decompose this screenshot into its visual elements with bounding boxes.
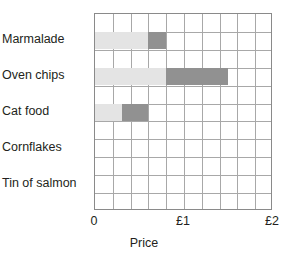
bar-segment[interactable] bbox=[95, 68, 166, 85]
x-axis-tick-label: £2 bbox=[265, 212, 279, 230]
category-label: Marmalade bbox=[2, 31, 87, 48]
category-axis-labels: MarmaladeOven chipsCat foodCornflakesTin… bbox=[0, 13, 92, 210]
bar-segment[interactable] bbox=[95, 104, 122, 121]
category-label: Tin of salmon bbox=[2, 175, 87, 192]
bar-segment[interactable] bbox=[122, 104, 149, 121]
x-axis-title: Price bbox=[0, 236, 288, 250]
bar-segment[interactable] bbox=[166, 68, 228, 85]
x-axis-tick-labels: 0£1£2 bbox=[0, 212, 288, 232]
category-label: Oven chips bbox=[2, 67, 87, 84]
plot-area bbox=[94, 13, 272, 210]
bar-row[interactable] bbox=[95, 68, 273, 85]
bar-row[interactable] bbox=[95, 32, 273, 49]
bar-row[interactable] bbox=[95, 104, 273, 121]
bars-layer bbox=[95, 14, 271, 209]
x-axis-tick-label: £1 bbox=[176, 212, 190, 230]
category-label: Cornflakes bbox=[2, 139, 87, 156]
category-label: Cat food bbox=[2, 103, 87, 120]
x-axis-tick-label: 0 bbox=[91, 212, 98, 230]
bar-segment[interactable] bbox=[95, 32, 148, 49]
bar-segment[interactable] bbox=[148, 32, 166, 49]
price-bar-chart: MarmaladeOven chipsCat foodCornflakesTin… bbox=[0, 0, 288, 261]
